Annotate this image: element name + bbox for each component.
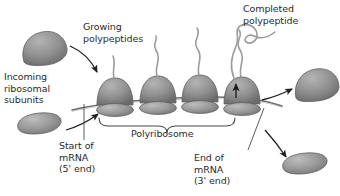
ribosome-2-small-subunit xyxy=(140,102,177,115)
ribosome-4 xyxy=(224,30,261,116)
ribosome-4-polypeptide xyxy=(238,30,242,77)
ribosome-1-small-subunit xyxy=(97,104,134,117)
ribosome-1 xyxy=(97,56,134,117)
ribosome-3 xyxy=(182,28,219,114)
ribosome-1-polypeptide xyxy=(113,56,114,78)
arrow-incoming-large-subunit xyxy=(70,46,97,72)
ribosome-3-small-subunit xyxy=(182,101,219,114)
ribosome-3-polypeptide xyxy=(196,28,200,75)
free-large-subunit-incoming xyxy=(23,31,67,65)
label-start-of-mrna: Start of mRNA (5' end) xyxy=(59,140,95,175)
free-small-subunit-released xyxy=(283,153,327,174)
label-completed-polypeptide: Completed polypeptide xyxy=(243,3,298,26)
polyribosome-diagram: Growing polypeptides Completed polypepti… xyxy=(0,0,340,196)
arrow-released-large-subunit xyxy=(262,89,292,100)
label-polyribosome: Polyribosome xyxy=(131,128,194,140)
completed-polypeptide-chain xyxy=(231,24,275,78)
label-incoming-ribosomal-subunits: Incoming ribosomal subunits xyxy=(4,71,50,106)
free-small-subunit-incoming xyxy=(18,113,61,134)
ribosome-2-polypeptide xyxy=(155,36,159,76)
ribosome-4-small-subunit xyxy=(224,103,261,116)
label-end-of-mrna: End of mRNA (3' end) xyxy=(194,152,230,187)
ribosome-2 xyxy=(140,36,177,115)
free-large-subunit-released xyxy=(295,69,339,102)
diagram-canvas xyxy=(0,0,340,196)
arrow-incoming-small-subunit xyxy=(66,114,98,130)
label-growing-polypeptides: Growing polypeptides xyxy=(83,21,143,44)
arrow-released-small-subunit xyxy=(265,130,286,157)
